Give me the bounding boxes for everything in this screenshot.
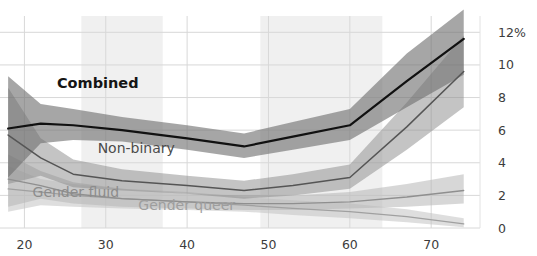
series-label-gender-queer: Gender queer <box>138 197 235 213</box>
y-tick-label-6: 6 <box>498 123 506 138</box>
chart-container: 12%1086420 203040506070 CombinedNon-bina… <box>0 0 537 256</box>
x-tick-label-30: 30 <box>98 237 114 252</box>
series-label-combined: Combined <box>57 75 139 91</box>
y-tick-label-0: 0 <box>498 221 506 236</box>
x-tick-label-50: 50 <box>261 237 277 252</box>
y-tick-label-2: 2 <box>498 188 506 203</box>
y-tick-label-12: 12% <box>498 25 526 40</box>
x-tick-label-20: 20 <box>16 237 32 252</box>
series-label-non-binary: Non-binary <box>98 140 175 156</box>
x-tick-label-70: 70 <box>423 237 439 252</box>
line-chart-with-confidence-bands: 12%1086420 203040506070 CombinedNon-bina… <box>0 0 537 256</box>
y-tick-label-8: 8 <box>498 90 506 105</box>
y-tick-label-4: 4 <box>498 155 506 170</box>
y-tick-label-10: 10 <box>498 57 514 72</box>
series-label-gender-fluid: Gender fluid <box>33 184 120 200</box>
x-tick-label-40: 40 <box>179 237 195 252</box>
x-tick-label-60: 60 <box>342 237 358 252</box>
